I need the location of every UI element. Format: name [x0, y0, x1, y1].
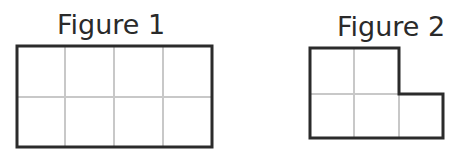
figure-1 — [17, 46, 212, 147]
figures-canvas — [0, 0, 471, 159]
figure-1-grid-lines — [17, 46, 212, 147]
figure-2 — [310, 48, 443, 138]
figure-2-grid-lines — [310, 48, 399, 138]
